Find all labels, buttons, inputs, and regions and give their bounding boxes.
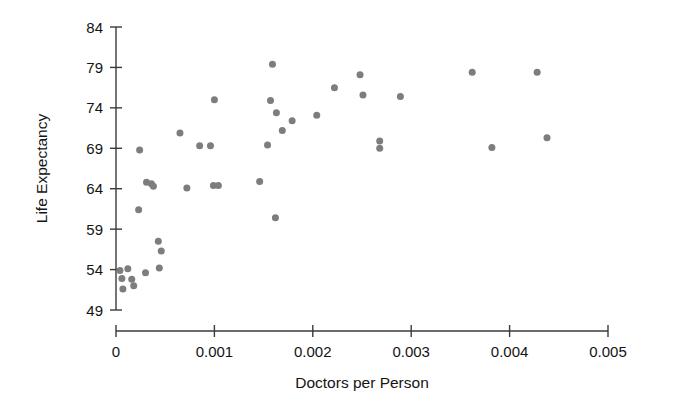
data-point bbox=[359, 91, 366, 98]
data-point bbox=[118, 275, 125, 282]
x-tick-label: 0 bbox=[112, 343, 120, 360]
data-point bbox=[207, 142, 214, 149]
data-point bbox=[158, 247, 165, 254]
data-point bbox=[176, 129, 183, 136]
data-point bbox=[269, 61, 276, 68]
data-point bbox=[156, 264, 163, 271]
data-point bbox=[376, 138, 383, 145]
data-point bbox=[357, 71, 364, 78]
data-point bbox=[397, 93, 404, 100]
x-tick-label: 0.004 bbox=[491, 343, 529, 360]
data-point bbox=[124, 265, 131, 272]
data-point bbox=[135, 206, 142, 213]
data-point bbox=[136, 146, 143, 153]
data-point bbox=[128, 276, 135, 283]
data-point bbox=[215, 182, 222, 189]
data-point bbox=[211, 96, 218, 103]
y-tick-label: 59 bbox=[86, 221, 103, 238]
data-points-group bbox=[116, 61, 550, 293]
data-point bbox=[273, 109, 280, 116]
x-tick-label: 0.001 bbox=[196, 343, 234, 360]
x-axis-tick-labels: 00.0010.0020.0030.0040.005 bbox=[112, 343, 627, 360]
plot-area: 4954596469747984 00.0010.0020.0030.0040.… bbox=[0, 0, 700, 407]
x-tick-label: 0.005 bbox=[589, 343, 627, 360]
data-point bbox=[267, 97, 274, 104]
data-point bbox=[279, 127, 286, 134]
data-point bbox=[488, 144, 495, 151]
data-point bbox=[543, 134, 550, 141]
data-point bbox=[534, 69, 541, 76]
x-axis-group: 00.0010.0020.0030.0040.005 bbox=[112, 325, 627, 360]
data-point bbox=[264, 142, 271, 149]
y-tick-label: 79 bbox=[86, 59, 103, 76]
data-point bbox=[272, 214, 279, 221]
y-tick-label: 54 bbox=[86, 261, 103, 278]
y-tick-label: 74 bbox=[86, 99, 103, 116]
data-point bbox=[289, 117, 296, 124]
y-tick-label: 84 bbox=[86, 19, 103, 36]
data-point bbox=[142, 269, 149, 276]
scatter-chart: 4954596469747984 00.0010.0020.0030.0040.… bbox=[0, 0, 700, 407]
y-tick-label: 49 bbox=[86, 302, 103, 319]
y-axis-title: Life Expectancy bbox=[33, 114, 50, 224]
data-point bbox=[183, 184, 190, 191]
data-point bbox=[155, 238, 162, 245]
y-axis-tick-labels: 4954596469747984 bbox=[86, 19, 103, 319]
data-point bbox=[130, 282, 137, 289]
data-point bbox=[119, 285, 126, 292]
x-tick-label: 0.003 bbox=[392, 343, 430, 360]
data-point bbox=[376, 145, 383, 152]
data-point bbox=[313, 112, 320, 119]
y-axis-group: 4954596469747984 bbox=[86, 19, 122, 319]
data-point bbox=[331, 84, 338, 91]
data-point bbox=[150, 183, 157, 190]
data-point bbox=[196, 142, 203, 149]
data-point bbox=[116, 267, 123, 274]
data-point bbox=[256, 178, 263, 185]
x-tick-label: 0.002 bbox=[294, 343, 332, 360]
x-axis-title: Doctors per Person bbox=[295, 374, 429, 391]
y-tick-label: 69 bbox=[86, 140, 103, 157]
y-tick-label: 64 bbox=[86, 180, 103, 197]
data-point bbox=[469, 69, 476, 76]
